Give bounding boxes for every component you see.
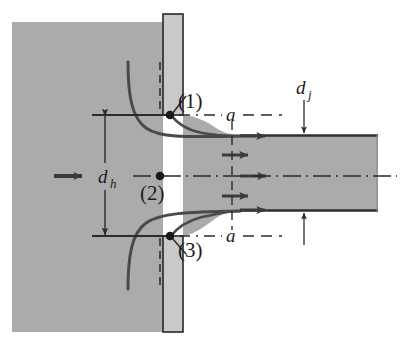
section-label-a-bottom: a: [226, 225, 236, 246]
diagram-canvas: d h d j a a: [0, 0, 400, 346]
dj-label-subscript: j: [306, 87, 312, 102]
dj-label: d: [296, 77, 306, 98]
label-point-2: (2): [140, 181, 165, 205]
marker-point-3: [166, 232, 175, 241]
section-label-a-top: a: [226, 104, 236, 125]
marker-point-2: [156, 172, 165, 181]
label-point-3: (3): [178, 238, 203, 262]
orifice-plate: [163, 14, 183, 332]
marker-point-1: [166, 111, 175, 120]
orifice-jet-diagram: d h d j a a: [0, 0, 400, 346]
label-point-1: (1): [178, 89, 203, 113]
reservoir-fill: [12, 22, 163, 332]
dh-label: d: [98, 166, 108, 187]
fluid-reservoir-region: [12, 22, 163, 332]
dh-label-subscript: h: [110, 176, 117, 191]
